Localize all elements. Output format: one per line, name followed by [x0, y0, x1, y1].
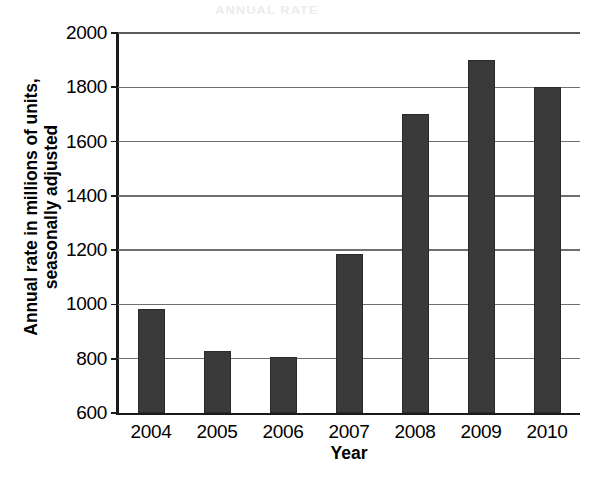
y-axis-tick-label: 600 — [76, 402, 107, 424]
gridline — [118, 87, 580, 88]
gridline — [118, 195, 580, 196]
gridline — [118, 32, 580, 34]
y-axis-line — [116, 32, 119, 414]
y-axis-title-line-2: seasonally adjusted — [42, 37, 62, 377]
y-axis-tick — [111, 32, 118, 34]
gridline — [118, 249, 580, 250]
plot-area: 6008001000120014001600180020002004200520… — [118, 33, 580, 413]
x-axis-tick-label-2010: 2010 — [526, 421, 567, 443]
bar-2007 — [336, 254, 363, 413]
x-axis-tick-label-2008: 2008 — [394, 421, 435, 443]
y-axis-tick-label: 1200 — [66, 239, 107, 261]
x-axis-tick-label-2004: 2004 — [130, 421, 171, 443]
bar-2009 — [468, 60, 495, 413]
y-axis-tick-label: 1800 — [66, 76, 107, 98]
y-axis-tick — [111, 358, 118, 360]
bar-2005 — [204, 351, 231, 413]
x-axis-tick-label-2007: 2007 — [328, 421, 369, 443]
bar-2008 — [402, 114, 429, 413]
y-axis-tick-label: 2000 — [66, 22, 107, 44]
gridline — [118, 141, 580, 142]
y-axis-tick-label: 1400 — [66, 185, 107, 207]
y-axis-tick — [111, 86, 118, 88]
y-axis-tick-label: 1600 — [66, 131, 107, 153]
bar-chart-figure: ANNUAL RATE Annual rate in millions of u… — [0, 0, 595, 486]
y-axis-tick-label: 1000 — [66, 293, 107, 315]
y-axis-tick — [111, 195, 118, 197]
x-axis-tick-label-2005: 2005 — [196, 421, 237, 443]
bar-2006 — [270, 357, 297, 413]
scan-bleed-artifact: ANNUAL RATE — [215, 3, 395, 16]
x-axis-tick-label-2009: 2009 — [460, 421, 501, 443]
y-axis-tick — [111, 412, 118, 414]
y-axis-title-line-1: Annual rate in millions of units, — [22, 37, 42, 377]
y-axis-tick — [111, 304, 118, 306]
x-axis-title: Year — [118, 443, 580, 464]
bar-2010 — [534, 87, 561, 413]
bar-2004 — [138, 309, 165, 414]
y-axis-tick — [111, 249, 118, 251]
x-axis-tick-label-2006: 2006 — [262, 421, 303, 443]
y-axis-tick — [111, 141, 118, 143]
y-axis-tick-label: 800 — [76, 348, 107, 370]
